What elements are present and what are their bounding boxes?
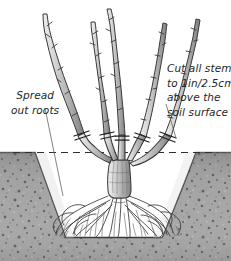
cut-all-stems-line-1: Cut all stems (167, 61, 231, 76)
cut-all-stems-line-4: soil surface (167, 105, 231, 120)
cut-all-stems-line-3: above the (167, 90, 231, 105)
shrub-trunk (108, 160, 131, 198)
spread-out-roots-line-2: out roots (11, 103, 59, 118)
spread-out-roots-label: Spread out roots (11, 88, 59, 117)
cut-all-stems-line-2: to 1in/2.5cm (167, 76, 231, 91)
spread-out-roots-line-1: Spread (11, 88, 59, 103)
cut-all-stems-label: Cut all stems to 1in/2.5cm above the soi… (167, 61, 231, 119)
planting-diagram: Spread out roots Cut all stems to 1in/2.… (0, 0, 231, 261)
diagram-canvas (0, 0, 231, 261)
